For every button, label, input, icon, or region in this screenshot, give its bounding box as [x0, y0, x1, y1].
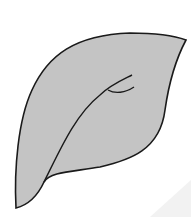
leaf-drawing [0, 0, 191, 217]
illustration [0, 0, 191, 217]
leaf-shape [16, 33, 186, 208]
corner-glare [150, 180, 191, 217]
